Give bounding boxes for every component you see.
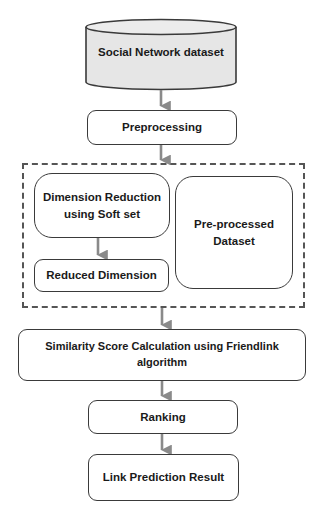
node-dataset-label: Social Network dataset (86, 46, 236, 58)
node-dimension-reduction-line1: Dimension Reduction (43, 189, 161, 206)
node-preprocessed-dataset: Pre-processed Dataset (175, 176, 293, 289)
node-similarity: Similarity Score Calculation using Frien… (18, 329, 306, 381)
node-ranking-label: Ranking (140, 409, 185, 426)
node-reduced-dimension-label: Reduced Dimension (46, 267, 157, 284)
node-result: Link Prediction Result (88, 454, 239, 501)
node-preprocessing-label: Preprocessing (122, 119, 202, 136)
node-similarity-label: Similarity Score Calculation using Frien… (19, 339, 305, 371)
node-preprocessed-dataset-line1: Pre-processed (194, 216, 274, 233)
node-preprocessing: Preprocessing (87, 110, 237, 145)
node-preprocessed-dataset-line2: Dataset (213, 233, 255, 250)
node-ranking: Ranking (88, 400, 238, 434)
node-dimension-reduction-line2: using Soft set (64, 206, 140, 223)
node-dimension-reduction: Dimension Reduction using Soft set (34, 173, 170, 238)
node-result-label: Link Prediction Result (103, 469, 224, 486)
node-reduced-dimension: Reduced Dimension (34, 259, 169, 292)
